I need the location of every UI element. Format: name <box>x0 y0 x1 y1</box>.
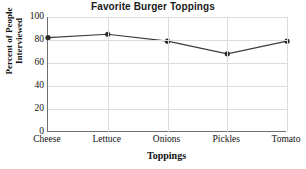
plot-area <box>47 17 286 132</box>
x-gridline <box>227 17 228 132</box>
chart-container: Favorite Burger Toppings Percent of Peop… <box>0 0 306 169</box>
y-axis-tick-labels: 020406080100 <box>0 17 47 132</box>
x-gridline <box>168 17 169 132</box>
x-tick-label: Tomato <box>272 134 301 144</box>
x-tick-label: Onions <box>153 134 180 144</box>
x-tick-label: Pickles <box>213 134 240 144</box>
x-gridline <box>108 17 109 132</box>
y-tick-label: 100 <box>3 11 47 21</box>
x-tick-label: Lettuce <box>93 134 121 144</box>
x-tick-label: Cheese <box>33 134 60 144</box>
x-axis-tick-labels: CheeseLettuceOnionsPicklesTomato <box>0 134 306 148</box>
y-tick-label: 80 <box>3 34 47 44</box>
x-axis-title: Toppings <box>47 150 286 161</box>
y-tick-label: 40 <box>3 80 47 90</box>
y-tick-label: 60 <box>3 57 47 67</box>
y-tick-label: 20 <box>3 103 47 113</box>
x-gridline <box>287 17 288 132</box>
